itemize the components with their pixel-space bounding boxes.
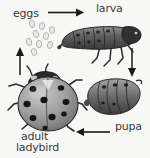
- arrow-adult-to-eggs: [16, 47, 24, 75]
- egg: [36, 40, 42, 48]
- pupa-figure: [84, 79, 142, 115]
- arrow-eggs-to-larva: [48, 9, 84, 17]
- eggs-cluster: [25, 20, 55, 56]
- label-pupa: pupa: [115, 121, 142, 132]
- label-eggs: eggs: [13, 8, 39, 19]
- arrow-larva-to-pupa: [128, 48, 136, 77]
- ladybird-life-cycle-diagram: eggs larva pupa adult ladybird: [0, 0, 150, 158]
- egg: [49, 26, 55, 34]
- larva-head: [122, 26, 141, 43]
- egg: [28, 20, 35, 28]
- egg: [47, 41, 54, 49]
- egg: [39, 22, 46, 30]
- egg: [32, 30, 40, 39]
- label-larva: larva: [96, 3, 123, 14]
- egg: [43, 32, 49, 40]
- arrow-pupa-to-adult: [76, 128, 110, 136]
- label-adult-line2: ladybird: [16, 142, 59, 153]
- egg: [25, 38, 32, 47]
- egg: [31, 48, 38, 56]
- larva-figure: [57, 26, 141, 66]
